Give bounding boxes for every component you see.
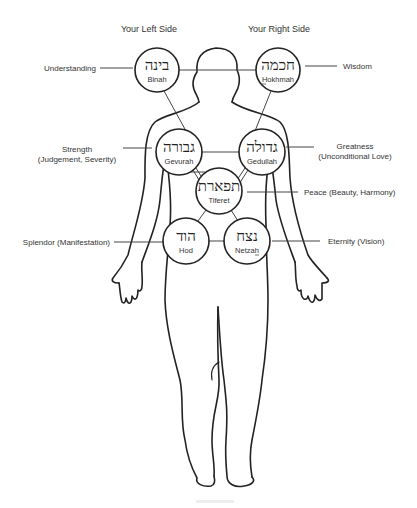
gedullah-name: Gedullah (247, 157, 277, 166)
sefirot-body-diagram: Your Left Side Your Right Side (0, 0, 417, 508)
binah-name: Binah (147, 75, 166, 84)
right-side-header: Your Right Side (248, 24, 310, 34)
gedullah-meaning-line2: (Unconditional Love) (318, 152, 392, 161)
sefirah-tiferet: תפארת Tiferet (196, 168, 242, 214)
netzah-hebrew: נצח (236, 227, 258, 245)
faint-caption (196, 500, 234, 503)
hokhmah-name: Hokhmah (262, 75, 294, 84)
left-side-header: Your Left Side (121, 24, 177, 34)
sefirah-binah: בינה Binah (135, 48, 179, 92)
sefirah-netzah: נצח Netzah (224, 218, 270, 264)
sefirah-hod: הוד Hod (163, 218, 209, 264)
sefirah-gedullah: גדולה Gedullah (239, 129, 285, 175)
leader-lines (100, 66, 337, 242)
hod-meaning: Splendor (Manifestation) (23, 238, 110, 247)
gevurah-name: Gevurah (165, 157, 194, 166)
tiferet-meaning: Peace (Beauty, Harmony) (304, 188, 396, 197)
hokhmah-meaning: Wisdom (343, 62, 372, 71)
netzah-meaning: Eternity (Vision) (328, 237, 385, 246)
tiferet-hebrew: תפארת (198, 177, 241, 195)
tiferet-name: Tiferet (209, 196, 231, 205)
netzah-name: Netzah (235, 246, 259, 255)
gevurah-hebrew: גבורה (163, 138, 195, 156)
sefirah-gevurah: גבורה Gevurah (156, 129, 202, 175)
binah-hebrew: בינה (145, 56, 170, 74)
binah-meaning: Understanding (44, 64, 96, 73)
gedullah-hebrew: גדולה (246, 138, 278, 156)
gedullah-meaning-line1: Greatness (337, 142, 374, 151)
hokhmah-hebrew: חכמה (261, 56, 295, 74)
sefirah-hokhmah: חכמה Hokhmah (256, 48, 300, 92)
gevurah-meaning-line1: Strength (62, 145, 92, 154)
human-body-outline (112, 48, 328, 487)
hod-hebrew: הוד (176, 227, 196, 245)
gevurah-meaning-line2: (Judgement, Severity) (38, 155, 117, 164)
hod-name: Hod (179, 246, 193, 255)
